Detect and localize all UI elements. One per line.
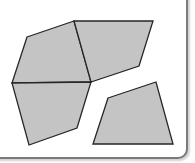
bottom-left-quad (12, 82, 91, 145)
tiling-diagram (0, 0, 195, 163)
separate-quad (93, 82, 173, 144)
